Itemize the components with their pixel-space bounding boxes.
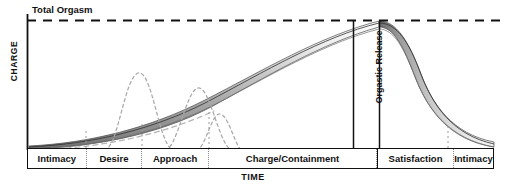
phase-band-label: Charge/Containment [246, 153, 339, 164]
chart-figure: Total Orgasm Orgastic Release CHARGE TIM… [0, 0, 505, 188]
total-orgasm-label: Total Orgasm [31, 4, 96, 15]
charge-ribbon [29, 21, 494, 150]
phase-band-intimacy-2: Intimacy [454, 149, 493, 168]
phase-band-label: Intimacy [454, 153, 493, 164]
phase-band-row: Intimacy Desire Approach Charge/Containm… [27, 148, 494, 169]
phase-band-intimacy-1: Intimacy [28, 149, 87, 168]
y-axis-label: CHARGE [9, 25, 19, 97]
phase-band-approach: Approach [142, 149, 208, 168]
phase-band-charge-containment: Charge/Containment [209, 149, 377, 168]
phase-band-desire: Desire [87, 149, 143, 168]
sub-cycle-curves [48, 73, 241, 150]
phase-band-label: Intimacy [38, 153, 77, 164]
phase-band-label: Desire [99, 153, 128, 164]
phase-band-satisfaction: Satisfaction [377, 149, 454, 168]
phase-band-label: Approach [153, 153, 197, 164]
orgastic-release-label: Orgastic Release [374, 19, 384, 115]
x-axis-label: TIME [28, 172, 478, 182]
phase-band-label: Satisfaction [389, 153, 443, 164]
